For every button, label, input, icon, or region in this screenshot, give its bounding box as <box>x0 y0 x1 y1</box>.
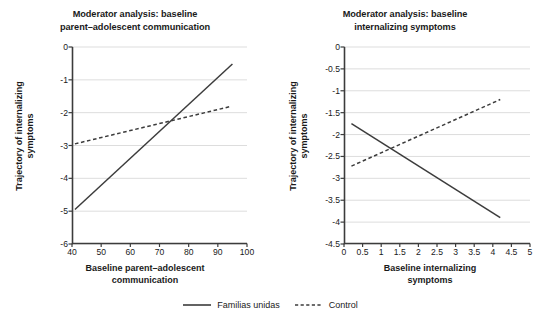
x-tick-label: 0.5 <box>357 247 369 257</box>
panel-a-title-line2: parent–adolescent communication <box>0 21 270 34</box>
panel-b-y-axis-label-line2: symptoms <box>299 26 310 246</box>
panel-a-x-axis-label-line1: Baseline parent–adolescent <box>40 263 250 275</box>
x-tick-label: 4 <box>490 247 495 257</box>
panel-a-x-axis-label: Baseline parent–adolescent communication <box>40 263 250 286</box>
legend-entry: Familias unidas <box>182 300 280 310</box>
x-tick-label: 2.5 <box>431 247 443 257</box>
y-tick-label: -3 <box>60 141 68 151</box>
x-tick-label: 2 <box>416 247 421 257</box>
panel-a-plot-area: 0-1-2-3-4-5-6405060708090100 <box>72 47 247 244</box>
legend-label: Familias unidas <box>217 300 280 310</box>
y-tick-label: -0.5 <box>325 64 340 74</box>
panel-a-y-axis-label: Trajectory of internalizing symptoms <box>14 26 32 246</box>
panels-row: Moderator analysis: baseline parent–adol… <box>0 0 540 292</box>
y-tick-label: -4.5 <box>325 239 340 249</box>
panel-a-x-axis-label-line2: communication <box>40 275 250 287</box>
x-tick-label: 1 <box>379 247 384 257</box>
x-tick-label: 50 <box>96 247 106 257</box>
x-tick-label: 0 <box>342 247 347 257</box>
x-tick-label: 4.5 <box>505 247 517 257</box>
panel-a-y-axis-label-line1: Trajectory of internalizing <box>14 26 25 246</box>
y-tick-label: 0 <box>63 42 68 52</box>
panel-a-title-line1: Moderator analysis: baseline <box>0 8 270 21</box>
x-tick-label: 3.5 <box>468 247 480 257</box>
y-tick-label: 0 <box>335 42 340 52</box>
x-tick-label: 60 <box>126 247 136 257</box>
x-tick-label: 100 <box>240 247 254 257</box>
panel-internalizing-symptoms: Moderator analysis: baseline internalizi… <box>270 0 540 292</box>
panel-b-x-axis-label-line2: symptoms <box>330 275 530 287</box>
panel-a-plot-svg <box>72 47 247 244</box>
moderator-analysis-figure: Moderator analysis: baseline parent–adol… <box>0 0 540 326</box>
legend-solid-line-icon <box>182 301 212 309</box>
x-tick-label: 5 <box>528 247 533 257</box>
panel-b-y-axis-label-line1: Trajectory of internalizing <box>288 26 299 246</box>
legend-dashed-line-icon <box>294 301 324 309</box>
panel-b-x-axis-label: Baseline internalizing symptoms <box>330 263 530 286</box>
x-tick-label: 80 <box>184 247 194 257</box>
legend-label: Control <box>329 300 358 310</box>
y-tick-label: -2.5 <box>325 151 340 161</box>
panel-b-title-line2: internalizing symptoms <box>270 21 540 34</box>
panel-b-y-axis-label: Trajectory of internalizing symptoms <box>288 26 306 246</box>
y-tick-label: -4 <box>60 173 68 183</box>
y-tick-label: -3 <box>332 173 340 183</box>
y-tick-label: -4 <box>332 217 340 227</box>
x-tick-label: 70 <box>155 247 165 257</box>
series-line-familias-unidas <box>75 64 233 209</box>
y-tick-label: -1.5 <box>325 108 340 118</box>
y-tick-label: -2 <box>332 130 340 140</box>
panel-b-title-line1: Moderator analysis: baseline <box>270 8 540 21</box>
panel-b-plot-svg <box>344 47 530 244</box>
legend-entry: Control <box>294 300 358 310</box>
series-line-familias-unidas <box>351 124 500 218</box>
panel-parent-adolescent-communication: Moderator analysis: baseline parent–adol… <box>0 0 270 292</box>
x-tick-label: 1.5 <box>394 247 406 257</box>
y-tick-label: -5 <box>60 206 68 216</box>
y-tick-label: -1 <box>60 75 68 85</box>
panel-a-y-axis-label-line2: symptoms <box>25 26 36 246</box>
y-tick-label: -3.5 <box>325 195 340 205</box>
figure-legend: Familias unidasControl <box>0 300 540 310</box>
x-tick-label: 3 <box>453 247 458 257</box>
x-tick-label: 40 <box>67 247 77 257</box>
y-tick-label: -2 <box>60 108 68 118</box>
y-tick-label: -1 <box>332 86 340 96</box>
panel-b-x-axis-label-line1: Baseline internalizing <box>330 263 530 275</box>
x-tick-label: 90 <box>213 247 223 257</box>
panel-a-title: Moderator analysis: baseline parent–adol… <box>0 8 270 33</box>
panel-b-plot-area: 0-0.5-1-1.5-2-2.5-3-3.5-4-4.500.511.522.… <box>344 47 530 244</box>
panel-b-title: Moderator analysis: baseline internalizi… <box>270 8 540 33</box>
